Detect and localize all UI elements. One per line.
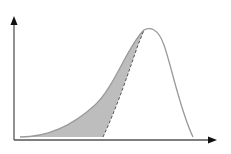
distribution-diagram bbox=[0, 0, 231, 154]
y-axis-arrow-icon bbox=[11, 16, 18, 25]
y-axis bbox=[11, 16, 18, 140]
x-axis bbox=[14, 137, 217, 144]
shaded-region bbox=[20, 30, 144, 137]
shaded-area bbox=[20, 30, 144, 137]
x-axis-arrow-icon bbox=[208, 137, 217, 144]
